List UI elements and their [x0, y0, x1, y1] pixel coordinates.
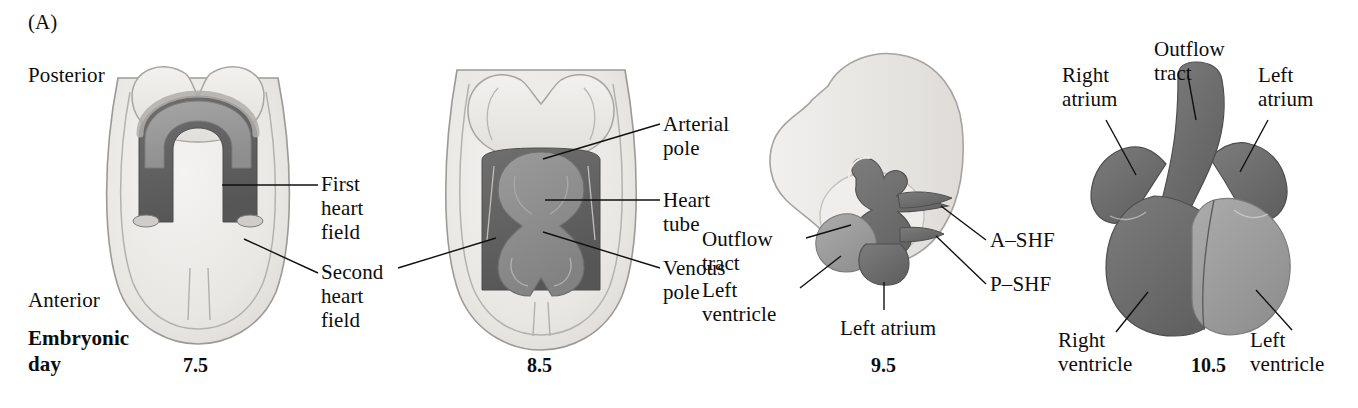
- embryonic-day-row-label-line2: day: [28, 352, 61, 376]
- panel-day-8-5-art: [398, 70, 660, 350]
- label-left-atrium-10-5: Left atrium: [1258, 63, 1313, 111]
- label-outflow-tract-9-5: Outflow tract: [702, 227, 773, 275]
- day-value-10-5: 10.5: [1191, 354, 1226, 377]
- label-right-atrium: Right atrium: [1062, 63, 1117, 111]
- day-value-9-5: 9.5: [871, 354, 896, 377]
- panel-day-7-5-art: [107, 67, 318, 344]
- label-p-shf: P–SHF: [990, 272, 1051, 296]
- day-value-8-5: 8.5: [527, 354, 552, 377]
- label-right-ventricle: Right ventricle: [1058, 328, 1132, 376]
- label-anterior: Anterior: [28, 288, 100, 312]
- panel-day-9-5-art: [770, 54, 986, 310]
- label-left-ventricle-9-5: Left ventricle: [702, 278, 776, 326]
- label-outflow-tract-10-5: Outflow tract: [1154, 37, 1225, 85]
- label-left-atrium-9-5: Left atrium: [840, 316, 936, 340]
- day-value-7-5: 7.5: [183, 354, 208, 377]
- label-left-ventricle-10-5: Left ventricle: [1250, 328, 1324, 376]
- label-second-heart-field: Second heart field: [321, 260, 383, 332]
- label-first-heart-field: First heart field: [321, 172, 363, 244]
- embryonic-day-row-label-line1: Embryonic: [28, 326, 129, 350]
- panel-letter: (A): [28, 10, 57, 35]
- label-posterior: Posterior: [28, 63, 105, 87]
- label-arterial-pole: Arterial pole: [663, 112, 729, 160]
- label-a-shf: A–SHF: [990, 228, 1055, 252]
- figure-panel-a: (A): [0, 0, 1358, 408]
